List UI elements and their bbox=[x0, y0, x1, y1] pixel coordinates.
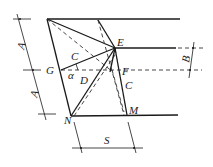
label-S: S bbox=[104, 134, 110, 146]
line-topleft-F bbox=[47, 19, 113, 72]
label-G: G bbox=[46, 64, 54, 76]
label-C-right: C bbox=[125, 79, 133, 91]
dim-A-dot-top bbox=[19, 18, 21, 20]
label-D: D bbox=[79, 74, 88, 86]
label-C-upper: C bbox=[71, 50, 79, 62]
label-A-upper: A bbox=[14, 41, 28, 52]
dim-A-dot-mid bbox=[32, 69, 34, 71]
angle-mark-alpha bbox=[76, 64, 78, 70]
label-alpha: α bbox=[68, 69, 74, 81]
bottom-line bbox=[71, 115, 178, 116]
label-F: F bbox=[121, 65, 129, 77]
label-A-lower: A bbox=[27, 89, 41, 100]
dim-B-dot-bottom bbox=[189, 69, 191, 71]
label-B: B bbox=[179, 54, 192, 63]
dim-S-dot-right bbox=[133, 147, 135, 149]
label-E: E bbox=[116, 36, 124, 48]
dim-B-dot-top bbox=[192, 47, 194, 49]
label-N: N bbox=[63, 114, 72, 126]
geometry-diagram: E G F N M C C D α A A B S bbox=[0, 0, 213, 167]
label-M: M bbox=[128, 104, 139, 116]
dim-A-line bbox=[17, 14, 46, 120]
dim-S-dot-left bbox=[80, 147, 82, 149]
